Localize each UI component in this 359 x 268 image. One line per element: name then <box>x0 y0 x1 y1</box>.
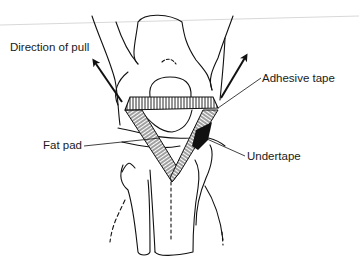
adhesive-tape-left-leg <box>125 110 180 182</box>
undertape-label: Undertape <box>247 151 301 163</box>
direction-of-pull-label: Direction of pull <box>10 42 89 54</box>
adhesive-tape-label: Adhesive tape <box>262 73 335 85</box>
right-pull-arrow <box>221 56 246 98</box>
femur-outline <box>92 16 120 125</box>
patella-top-dash <box>162 59 176 64</box>
leg-left-dash <box>110 200 125 242</box>
adhesive-tape-top-band <box>125 97 218 110</box>
tibia-left-edge <box>150 170 155 252</box>
femur-shaft <box>134 15 212 90</box>
fibula-head <box>122 163 135 172</box>
fibula-outline <box>121 165 150 255</box>
left-pull-arrow <box>94 61 122 102</box>
leg-right-dash <box>222 232 223 245</box>
fat-pad-label: Fat pad <box>43 140 82 152</box>
patella-outline <box>150 77 191 97</box>
leg-right-outline <box>205 186 223 240</box>
undertape-leader <box>207 139 245 156</box>
knee-taping-diagram: Direction of pull Adhesive tape Fat pad … <box>0 0 359 268</box>
